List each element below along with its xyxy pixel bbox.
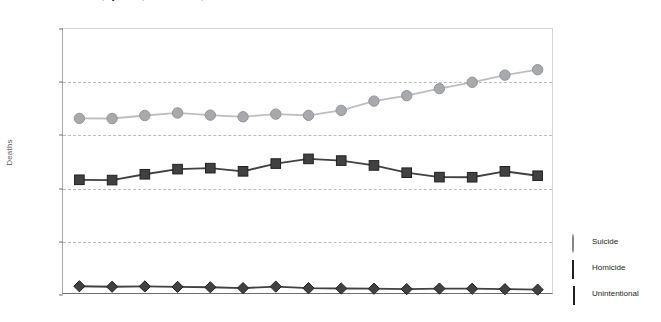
unintentional-diamond-icon bbox=[572, 287, 585, 300]
data-point[interactable] bbox=[401, 284, 412, 295]
legend-item-suicide[interactable]: Suicide bbox=[572, 228, 661, 254]
data-point[interactable] bbox=[500, 70, 510, 80]
data-point[interactable] bbox=[434, 283, 445, 294]
plot-inner: 05,00010,00015,00020,00025,000 199920002… bbox=[63, 29, 552, 293]
data-point[interactable] bbox=[107, 175, 117, 185]
chart-title-clipped: Firearm Deaths, by Intent, United States… bbox=[40, 0, 460, 3]
suicide-circle-icon bbox=[572, 235, 585, 248]
data-point[interactable] bbox=[304, 154, 314, 164]
data-point[interactable] bbox=[303, 283, 314, 294]
series-unintentional bbox=[74, 281, 543, 296]
data-point[interactable] bbox=[499, 284, 510, 295]
data-point[interactable] bbox=[238, 112, 248, 122]
data-point[interactable] bbox=[500, 167, 510, 177]
data-point[interactable] bbox=[533, 171, 543, 181]
data-point[interactable] bbox=[75, 175, 85, 185]
data-point[interactable] bbox=[532, 284, 543, 295]
legend-item-unintentional[interactable]: Unintentional bbox=[572, 280, 661, 306]
legend-label-unintentional: Unintentional bbox=[592, 289, 639, 298]
series-suicide bbox=[74, 64, 543, 123]
data-point[interactable] bbox=[205, 110, 215, 120]
data-point[interactable] bbox=[74, 113, 84, 123]
y-axis-label: Deaths bbox=[5, 123, 14, 183]
data-point[interactable] bbox=[172, 281, 183, 292]
chart-root: Firearm Deaths, by Intent, United States… bbox=[0, 0, 661, 322]
data-point[interactable] bbox=[336, 105, 346, 115]
homicide-square-icon bbox=[572, 261, 585, 274]
data-point[interactable] bbox=[303, 110, 313, 120]
data-point[interactable] bbox=[467, 77, 477, 87]
data-point[interactable] bbox=[368, 283, 379, 294]
data-point[interactable] bbox=[271, 109, 281, 119]
plot-area: 05,00010,00015,00020,00025,000 199920002… bbox=[62, 28, 553, 294]
legend-label-homicide: Homicide bbox=[592, 263, 625, 272]
data-point[interactable] bbox=[435, 172, 445, 182]
data-point[interactable] bbox=[369, 96, 379, 106]
data-point[interactable] bbox=[336, 156, 346, 166]
data-point[interactable] bbox=[271, 159, 281, 169]
data-point[interactable] bbox=[369, 161, 379, 171]
data-point[interactable] bbox=[402, 90, 412, 100]
data-point[interactable] bbox=[238, 167, 248, 177]
series-homicide bbox=[75, 154, 543, 185]
series-layer bbox=[63, 29, 554, 295]
chart-title: Firearm Deaths, by Intent, United States… bbox=[40, 0, 460, 2]
data-point[interactable] bbox=[532, 64, 542, 74]
data-point[interactable] bbox=[336, 283, 347, 294]
data-point[interactable] bbox=[402, 168, 412, 178]
legend-label-suicide: Suicide bbox=[592, 237, 618, 246]
data-point[interactable] bbox=[172, 108, 182, 118]
data-point[interactable] bbox=[434, 83, 444, 93]
data-point[interactable] bbox=[107, 113, 117, 123]
data-point[interactable] bbox=[140, 110, 150, 120]
data-point[interactable] bbox=[237, 282, 248, 293]
data-point[interactable] bbox=[467, 283, 478, 294]
legend: Suicide Homicide Unintentional bbox=[572, 228, 661, 306]
data-point[interactable] bbox=[140, 169, 150, 179]
data-point[interactable] bbox=[173, 164, 183, 174]
data-point[interactable] bbox=[270, 281, 281, 292]
data-point[interactable] bbox=[205, 282, 216, 293]
data-point[interactable] bbox=[206, 163, 216, 173]
data-point[interactable] bbox=[467, 172, 477, 182]
legend-item-homicide[interactable]: Homicide bbox=[572, 254, 661, 280]
data-point[interactable] bbox=[74, 281, 85, 292]
data-point[interactable] bbox=[139, 281, 150, 292]
data-point[interactable] bbox=[107, 281, 118, 292]
